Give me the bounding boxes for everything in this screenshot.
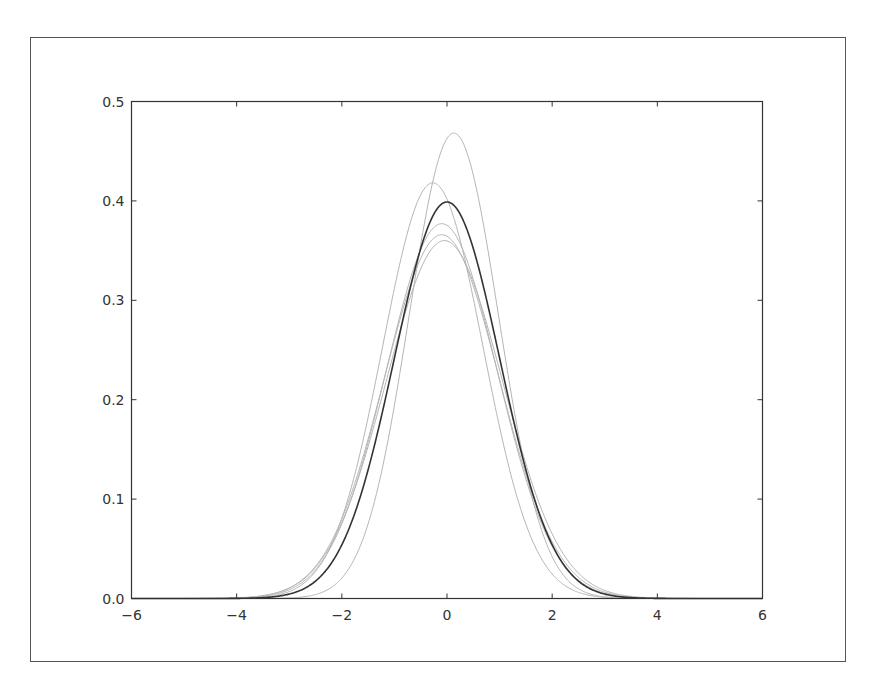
- y-tick-label: 0.3: [102, 292, 124, 308]
- y-tick-label: 0.2: [102, 392, 124, 408]
- y-tick-label: 0.1: [102, 491, 124, 507]
- x-tick-label: −4: [226, 607, 247, 623]
- y-tick-label: 0.0: [102, 591, 124, 607]
- x-tick-label: 6: [758, 607, 767, 623]
- y-tick-label: 0.4: [102, 193, 124, 209]
- x-tick-label: 0: [443, 607, 452, 623]
- outer-frame: [31, 38, 846, 662]
- x-tick-label: 2: [548, 607, 557, 623]
- x-tick-label: 4: [653, 607, 662, 623]
- x-tick-label: −6: [121, 607, 142, 623]
- figure: −6−4−20246 0.00.10.20.30.40.5: [0, 0, 880, 699]
- y-tick-label: 0.5: [102, 94, 124, 110]
- x-tick-label: −2: [332, 607, 353, 623]
